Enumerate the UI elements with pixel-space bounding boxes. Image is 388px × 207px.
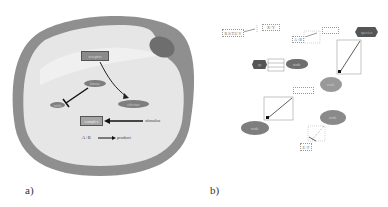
panel-b: R.S.T.U.V X+Y A+B species sp node node n… — [200, 0, 388, 207]
panel-b-label: b) — [210, 184, 219, 196]
product-label: product — [117, 135, 131, 140]
node-bottom-small[interactable]: E+F — [300, 143, 312, 151]
node-top-left-box[interactable]: R.S.T.U.V — [222, 29, 244, 37]
reactant-label: A+B — [82, 135, 91, 140]
node-hex-top-right[interactable]: species — [355, 27, 378, 37]
inhibited-ellipse: inhib — [50, 102, 65, 108]
panel-a: receptor kinase inhib effector complex s… — [0, 0, 200, 207]
node-ellipse-right-2[interactable]: node — [320, 110, 346, 125]
node-lower-small-box[interactable] — [293, 87, 314, 94]
effector-ellipse: effector — [118, 100, 149, 108]
node-ellipse-bottom-left[interactable]: node — [241, 121, 269, 135]
node-hex-left[interactable]: sp — [252, 60, 267, 69]
node-ellipse-right-1[interactable]: node — [320, 77, 342, 92]
stimulus-label: stimulus — [145, 118, 160, 123]
complex-box: complex — [80, 116, 103, 126]
receptor-box: receptor — [81, 51, 109, 61]
node-mid-top-box[interactable] — [322, 27, 339, 34]
cell-illustration — [0, 0, 200, 207]
kinase-ellipse: kinase — [84, 80, 106, 87]
node-top-small-box[interactable]: X+Y — [262, 24, 280, 31]
node-ellipse-left-mid[interactable]: node — [286, 59, 308, 69]
panel-a-label: a) — [25, 184, 34, 196]
node-mid-small[interactable]: A+B — [292, 36, 304, 43]
